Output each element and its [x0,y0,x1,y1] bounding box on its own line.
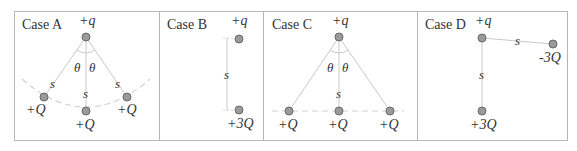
case-d-charge-right [549,40,557,48]
case-c-charge-right [386,107,394,115]
case-c-charge-left [285,107,293,115]
case-c-charge-center [335,107,343,115]
panel-case-a: Case A +q θ θ s s s +Q +Q +Q [22,13,150,132]
panel-case-c: Case C +q θ θ s +Q +Q +Q [272,13,404,132]
case-d-distance-vertical: s [479,67,484,82]
panel-case-b: Case B s +q +3Q [167,13,254,131]
case-d-distance-horizontal: s [515,33,520,48]
case-a-charge-left-label: +Q [26,102,46,117]
case-a-label: Case A [22,17,63,32]
case-b-distance-label: s [224,67,229,82]
case-a-charge-right-label: +Q [117,102,137,117]
case-d-charge-bottom [478,107,486,115]
case-b-charge [235,106,243,114]
case-c-charge-left-label: +Q [278,117,298,132]
case-a-charge-center [82,107,90,115]
case-a-source-charge [82,33,90,41]
case-c-distance-label: s [336,86,341,101]
case-b-source-charge [235,35,243,43]
case-a-charge-right [123,93,131,101]
case-a-theta-right: θ [89,60,96,75]
case-c-label: Case C [272,17,312,32]
charge-configuration-diagram: Case A +q θ θ s s s +Q +Q +Q Case B s +q [0,0,577,151]
case-c-charge-center-label: +Q [328,117,348,132]
panel-case-d: Case D +q s s -3Q +3Q [425,13,561,132]
case-d-label: Case D [425,17,466,32]
case-c-theta-right: θ [342,60,349,75]
case-d-source-charge-label: +q [475,13,491,28]
case-a-distance-left: s [50,76,55,91]
case-d-source-charge [478,34,486,42]
case-a-distance-center: s [83,86,88,101]
case-a-charge-left [40,93,48,101]
case-a-theta-left: θ [74,60,81,75]
case-c-source-charge-label: +q [332,13,348,28]
case-a-source-charge-label: +q [79,13,95,28]
case-b-source-charge-label: +q [231,13,247,28]
case-b-charge-label: +3Q [227,116,254,131]
case-c-source-charge [335,33,343,41]
case-b-label: Case B [167,17,207,32]
case-a-distance-right: s [115,76,120,91]
case-c-charge-right-label: +Q [379,117,399,132]
case-d-charge-right-label: -3Q [539,50,561,65]
case-c-theta-left: θ [327,60,334,75]
case-d-charge-bottom-label: +3Q [470,117,497,132]
case-a-charge-center-label: +Q [75,117,95,132]
